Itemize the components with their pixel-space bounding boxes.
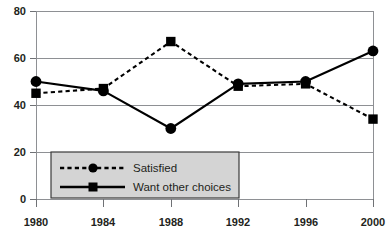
data-point <box>233 78 244 89</box>
x-tick-label: 1980 <box>24 216 48 228</box>
data-point <box>166 37 175 46</box>
line-chart: 80 60 40 20 0 1980 1984 1988 1992 1996 2… <box>0 0 387 246</box>
data-point <box>98 86 109 97</box>
x-tick-label: 1984 <box>91 216 116 228</box>
chart-container: 80 60 40 20 0 1980 1984 1988 1992 1996 2… <box>0 0 387 246</box>
y-axis-labels: 80 60 40 20 0 <box>14 5 26 205</box>
y-axis-ticks <box>30 11 36 199</box>
x-tick-label: 1992 <box>226 216 250 228</box>
data-point <box>368 114 377 123</box>
x-axis-ticks <box>36 199 373 207</box>
data-point <box>165 123 176 134</box>
legend[interactable]: Satisfied Want other choices <box>51 152 239 198</box>
y-tick-label: 60 <box>14 52 26 64</box>
x-tick-label: 1996 <box>294 216 318 228</box>
legend-label-satisfied: Satisfied <box>133 162 177 174</box>
legend-label-want-other-choices: Want other choices <box>133 181 231 193</box>
y-tick-label: 20 <box>14 146 26 158</box>
data-point <box>31 89 40 98</box>
y-tick-label: 0 <box>20 193 26 205</box>
legend-marker-circle <box>88 163 97 172</box>
legend-marker-square <box>89 183 98 192</box>
data-point <box>300 76 311 87</box>
x-tick-label: 1988 <box>159 216 183 228</box>
data-point <box>31 76 42 87</box>
data-point <box>368 46 379 57</box>
y-tick-label: 40 <box>14 99 26 111</box>
x-axis-labels: 1980 1984 1988 1992 1996 2000 <box>24 216 385 228</box>
y-tick-label: 80 <box>14 5 26 17</box>
x-tick-label: 2000 <box>361 216 385 228</box>
